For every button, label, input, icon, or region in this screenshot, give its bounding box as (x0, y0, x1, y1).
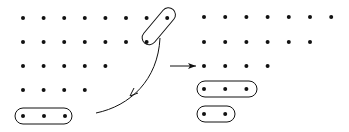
curved-move-arrow (96, 38, 160, 113)
dot (165, 16, 169, 20)
dot (83, 64, 87, 68)
dot (42, 64, 46, 68)
dot-diagram (0, 0, 349, 132)
dot (62, 64, 66, 68)
dot (223, 40, 227, 44)
dot (223, 15, 227, 19)
dot (103, 64, 107, 68)
dot (202, 112, 206, 116)
dot (62, 88, 66, 92)
dot (244, 87, 248, 91)
dot (202, 15, 206, 19)
dot (21, 16, 25, 20)
left-dot-array (21, 16, 169, 118)
dot (42, 40, 46, 44)
dot (21, 40, 25, 44)
dot (202, 64, 206, 68)
dot (63, 114, 67, 118)
dot (287, 15, 291, 19)
dot (329, 15, 333, 19)
dot (223, 87, 227, 91)
dot (124, 16, 128, 20)
dot (103, 40, 107, 44)
dot (124, 40, 128, 44)
dot (202, 87, 206, 91)
dot (42, 16, 46, 20)
dot (308, 40, 312, 44)
dot (287, 40, 291, 44)
dot (103, 16, 107, 20)
dot (223, 64, 227, 68)
dot (223, 112, 227, 116)
dot (21, 88, 25, 92)
dot (62, 40, 66, 44)
dot (244, 64, 248, 68)
dot (62, 16, 66, 20)
dot (145, 16, 149, 20)
dot (83, 16, 87, 20)
dot (21, 64, 25, 68)
dot (42, 88, 46, 92)
dot (21, 114, 25, 118)
dot (266, 64, 270, 68)
dot (83, 88, 87, 92)
dot (42, 114, 46, 118)
dot (202, 40, 206, 44)
dot (244, 40, 248, 44)
dot (244, 15, 248, 19)
dot (308, 15, 312, 19)
dot (266, 15, 270, 19)
right-dot-array (202, 15, 333, 116)
dot (266, 40, 270, 44)
dot (83, 40, 87, 44)
